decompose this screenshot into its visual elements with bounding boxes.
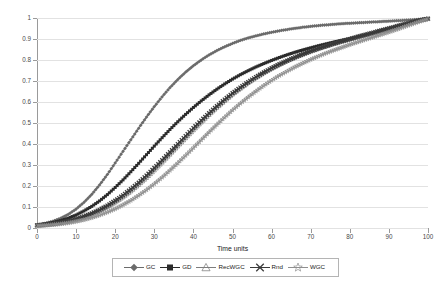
- y-tick-label: 0: [3, 225, 31, 231]
- y-axis-title: Fraction of discovered hidden profiles: [0, 0, 10, 42]
- legend: GCGDRecWGCRndWGC: [112, 258, 339, 277]
- x-axis-title: Time units: [37, 246, 428, 253]
- series-line: [37, 19, 428, 226]
- x-tick-label: 30: [142, 234, 166, 240]
- chart-figure: 00.10.20.30.40.50.60.70.80.91 0102030405…: [0, 0, 448, 283]
- legend-marker-diamond-icon: [123, 262, 145, 273]
- series-rnd: [35, 17, 430, 227]
- legend-item-gd[interactable]: GD: [159, 262, 194, 273]
- series-wgc: [35, 17, 430, 228]
- series-line: [37, 19, 428, 225]
- legend-label: GC: [146, 264, 158, 270]
- legend-label: WGC: [310, 264, 328, 270]
- series-recwgc: [35, 17, 430, 227]
- legend-label: Rnd: [272, 264, 286, 270]
- legend-item-wgc[interactable]: WGC: [287, 262, 328, 273]
- y-tick-label: 0.8: [3, 57, 31, 63]
- y-tick-label: 0.2: [3, 183, 31, 189]
- series-gd: [36, 17, 430, 226]
- series-line: [37, 19, 428, 226]
- series-container: [37, 18, 428, 228]
- y-tick-label: 0.6: [3, 99, 31, 105]
- legend-item-gc[interactable]: GC: [123, 262, 158, 273]
- x-tick-label: 0: [25, 234, 49, 240]
- x-tick-label: 10: [64, 234, 88, 240]
- legend-marker-square-icon: [159, 262, 181, 273]
- x-tick-label: 90: [377, 234, 401, 240]
- x-tick-label: 70: [299, 234, 323, 240]
- x-tick-label: 20: [103, 234, 127, 240]
- x-tick-label: 80: [338, 234, 362, 240]
- legend-marker-star-icon: [287, 262, 309, 273]
- x-tick-label: 60: [260, 234, 284, 240]
- x-tick-label: 100: [416, 234, 440, 240]
- legend-marker-xmark-icon: [249, 262, 271, 273]
- y-tick-label: 0.1: [3, 204, 31, 210]
- legend-label: GD: [182, 264, 194, 270]
- y-tick-label: 0.7: [3, 78, 31, 84]
- x-tick-label: 50: [221, 234, 245, 240]
- legend-item-rnd[interactable]: Rnd: [249, 262, 286, 273]
- series-gc: [35, 17, 430, 227]
- legend-item-recwgc[interactable]: RecWGC: [195, 262, 247, 273]
- series-line: [37, 18, 428, 224]
- legend-marker-triangle-icon: [195, 262, 217, 273]
- x-tick-label: 40: [181, 234, 205, 240]
- legend-label: RecWGC: [218, 264, 247, 270]
- y-tick-label: 0.4: [3, 141, 31, 147]
- y-tick-label: 0.5: [3, 120, 31, 126]
- y-tick-label: 0.3: [3, 162, 31, 168]
- series-line: [37, 19, 428, 226]
